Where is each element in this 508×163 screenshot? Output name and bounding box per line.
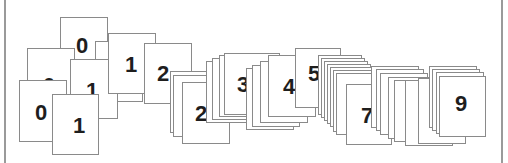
card-digit-label: 1 xyxy=(125,54,137,76)
card-digit-label: 4 xyxy=(283,76,295,98)
card-digit-label: 0 xyxy=(35,102,47,124)
digit-card-1: 1 xyxy=(52,94,99,155)
card-digit-label: 2 xyxy=(157,63,169,85)
card-piles: 0001112234579 xyxy=(0,0,508,163)
card-digit-label: 0 xyxy=(76,35,88,57)
card-digit-label: 9 xyxy=(455,93,467,115)
card-digit-label: 1 xyxy=(73,115,85,137)
digit-card-9: 9 xyxy=(439,76,486,137)
